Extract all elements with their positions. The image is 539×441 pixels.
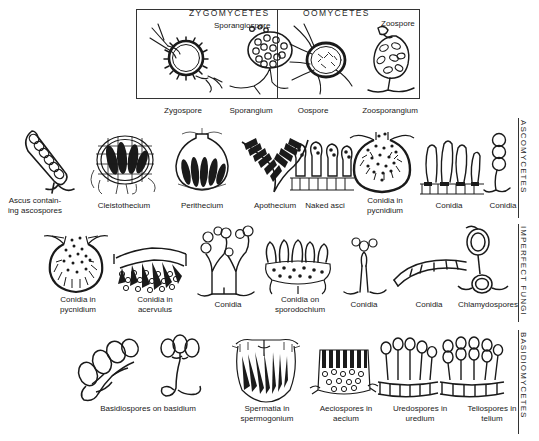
figure-conidia-in-acervulus [112, 240, 188, 298]
caption-aeciospores: Aeciospores in aecium [304, 404, 388, 423]
figure-conidia-pycnidium [348, 130, 416, 196]
caption-spermatia: Spermatia in spermogonium [222, 404, 312, 423]
figure-basidiospores-b [152, 338, 214, 404]
section-header-zygomycetes: ZYGOMYCETES [189, 8, 270, 18]
figure-oospore [288, 22, 364, 96]
side-label-imperfect-fungi: IMPERFECT FUNGI [519, 226, 528, 316]
caption-basidiospores-on-basidium: Basidiospores on basidium [60, 404, 236, 414]
caption-conidia-asco-1: Conidia [418, 201, 480, 211]
section-header-oomycetes: OOMYCETES [303, 8, 370, 18]
figure-cleistothecium [88, 130, 162, 196]
figure-aeciospores [308, 344, 380, 402]
caption-perithecium: Perithecium [160, 201, 244, 211]
side-label-basidiomycetes: BASIDIOMYCETES [519, 332, 528, 419]
figure-conidia-asco-2 [484, 132, 520, 196]
caption-conidia-pycnidium: Conidia in pycnidium [348, 196, 422, 215]
fungal-spore-structures-plate: ZYGOMYCETES OOMYCETES Sporangiospore Zoo… [0, 0, 539, 441]
caption-cleistothecium: Cleistothecium [78, 201, 170, 211]
figure-teliospores [438, 338, 506, 400]
figure-uredospores [376, 338, 440, 400]
figure-perithecium [168, 132, 236, 196]
caption-conidia-in-acervulus: Conidia in acervulus [114, 295, 196, 314]
caption-conidia-in-pycnidium: Conidia in pycnidium [36, 295, 120, 314]
figure-spermatia [228, 336, 304, 404]
figure-zygospore [148, 22, 224, 94]
caption-zoosporangium: Zoosporangium [340, 106, 440, 116]
side-label-ascomycetes: ASCOMYCETES [519, 120, 528, 193]
figure-conidia-sporodochium [262, 240, 334, 296]
figure-conidia-imp-1 [196, 228, 262, 298]
figure-chlamydospores [454, 228, 510, 296]
figure-conidia-imp-2 [340, 240, 390, 296]
caption-ascus: Ascus contain- ing ascospores [2, 196, 68, 215]
caption-conidia-asco-2: Conidia [474, 201, 532, 211]
figure-naked-asci [288, 142, 354, 198]
figure-ascus [20, 127, 82, 195]
caption-conidia-imp-2: Conidia [330, 300, 398, 310]
figure-zoosporangium [358, 24, 430, 98]
figure-basidiospores-a [72, 338, 148, 404]
figure-conidia-asco-1 [418, 138, 484, 196]
figure-conidia-in-pycnidium [42, 228, 110, 294]
caption-conidia-imp-1: Conidia [194, 300, 262, 310]
